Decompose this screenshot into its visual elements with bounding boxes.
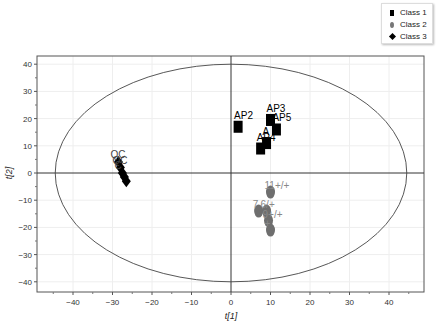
svg-text:−30: −30 <box>18 251 32 260</box>
legend: Class 1 Class 2 Class 3 <box>381 3 433 44</box>
legend-item-class-2: Class 2 <box>382 19 432 30</box>
point-label: AP5 <box>272 112 291 123</box>
square-marker-icon <box>388 10 396 16</box>
data-points: AP2AP3AP5AAP411+/+76/+9+/++QCQCC <box>110 103 291 237</box>
point-label: 7 <box>253 199 259 210</box>
point-label: AP4 <box>257 132 276 143</box>
point-label: AP2 <box>234 110 253 121</box>
y-axis-ticks: −40−30−20−10010203040 <box>18 60 37 287</box>
legend-item-class-1: Class 1 <box>382 7 432 18</box>
svg-text:10: 10 <box>266 298 275 307</box>
y-axis-label: t[2] <box>4 166 14 179</box>
svg-text:0: 0 <box>28 169 33 178</box>
x-axis-ticks: −40−30−20−10010203040 <box>53 292 409 307</box>
legend-item-class-3: Class 3 <box>382 31 432 42</box>
svg-text:−20: −20 <box>145 298 159 307</box>
legend-label: Class 1 <box>400 8 427 17</box>
svg-text:−10: −10 <box>185 298 199 307</box>
svg-text:20: 20 <box>23 115 32 124</box>
svg-text:−20: −20 <box>18 223 32 232</box>
svg-text:40: 40 <box>23 60 32 69</box>
oval-marker-icon <box>388 22 396 28</box>
svg-text:30: 30 <box>23 87 32 96</box>
svg-text:−40: −40 <box>66 298 80 307</box>
svg-text:−10: −10 <box>18 196 32 205</box>
svg-text:20: 20 <box>306 298 315 307</box>
class-1-marker <box>256 143 265 155</box>
svg-text:30: 30 <box>345 298 354 307</box>
svg-text:0: 0 <box>229 298 234 307</box>
legend-label: Class 3 <box>400 32 427 41</box>
x-axis-label: t[1] <box>225 311 238 321</box>
point-label: 11+/+ <box>265 180 290 191</box>
point-label: C <box>114 160 121 171</box>
point-label: + <box>265 218 271 229</box>
legend-label: Class 2 <box>400 20 427 29</box>
svg-text:−30: −30 <box>106 298 120 307</box>
scatter-plot: −40−30−20−10010203040 −40−30−20−10010203… <box>0 0 440 330</box>
class-1-marker <box>234 121 243 133</box>
svg-text:40: 40 <box>385 298 394 307</box>
svg-text:−40: −40 <box>18 278 32 287</box>
svg-text:10: 10 <box>23 142 32 151</box>
diamond-marker-icon <box>388 34 396 39</box>
